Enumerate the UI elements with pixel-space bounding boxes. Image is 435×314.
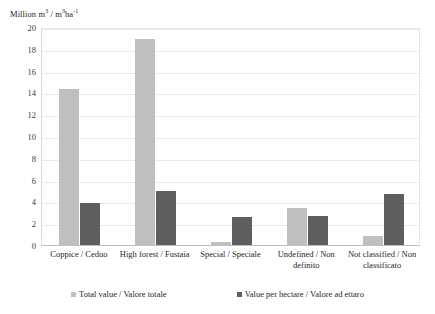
y-axis-tick-label: 10: [28, 132, 37, 142]
y-axis-title: Million m3 / m3ha-1: [10, 9, 78, 19]
legend-swatch-icon: [71, 292, 76, 297]
bar-value-per-hectare: [156, 191, 176, 246]
x-axis-tick-label: Not classified / Non classificato: [344, 249, 420, 271]
bar-group: [118, 29, 194, 245]
bar-value-per-hectare: [308, 216, 328, 245]
y-axis-tick-label: 12: [28, 110, 37, 120]
legend-item[interactable]: Value per hectare / Valore ad ettaro: [237, 289, 364, 299]
bar-total-value: [211, 242, 231, 245]
legend-item[interactable]: Total value / Valore totale: [71, 289, 167, 299]
bar-group: [194, 29, 270, 245]
plot-area: [41, 28, 420, 246]
bar-total-value: [363, 236, 383, 245]
bar-value-per-hectare: [232, 217, 252, 245]
y-axis-tick-label: 18: [28, 45, 37, 55]
y-axis-title-unit: ha: [65, 9, 73, 19]
legend-swatch-icon: [237, 292, 242, 297]
y-axis-tick-label: 4: [32, 197, 36, 207]
bars-layer: [42, 29, 419, 245]
bar-total-value: [135, 39, 155, 245]
bar-group: [345, 29, 421, 245]
bar-chart: Million m3 / m3ha-1 02468101214161820 Co…: [0, 0, 435, 314]
y-axis-tick-label: 16: [28, 67, 37, 77]
legend-label: Value per hectare / Valore ad ettaro: [245, 289, 364, 299]
y-axis-tick-label: 8: [32, 154, 36, 164]
y-axis-tick-label: 2: [32, 219, 36, 229]
bar-total-value: [287, 208, 307, 245]
y-axis-title-sup3: -1: [73, 8, 78, 14]
bar-group: [269, 29, 345, 245]
x-axis-category-labels: Coppice / CeduoHigh forest / FustaiaSpec…: [41, 249, 420, 285]
x-axis-tick-label: Special / Speciale: [193, 249, 269, 260]
y-axis-tick-label: 0: [32, 241, 36, 251]
y-axis-tick-label: 14: [28, 88, 37, 98]
bar-value-per-hectare: [80, 203, 100, 246]
chart-legend: Total value / Valore totaleValue per hec…: [0, 289, 435, 299]
bar-total-value: [59, 89, 79, 245]
y-axis-title-mid: / m: [48, 9, 62, 19]
y-axis-title-prefix: Million m: [10, 9, 45, 19]
x-axis-tick-label: High forest / Fustaia: [117, 249, 193, 260]
y-axis-tick-label: 6: [32, 176, 36, 186]
y-axis-tick-labels: 02468101214161820: [0, 28, 36, 246]
bar-group: [42, 29, 118, 245]
x-axis-tick-label: Undefined / Non definito: [268, 249, 344, 271]
legend-label: Total value / Valore totale: [79, 289, 167, 299]
x-axis-tick-label: Coppice / Ceduo: [41, 249, 117, 260]
y-axis-tick-label: 20: [28, 23, 37, 33]
bar-value-per-hectare: [384, 194, 404, 245]
